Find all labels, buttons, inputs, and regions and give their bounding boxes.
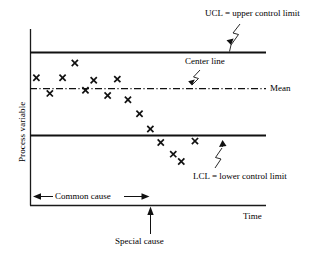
ucl-label: UCL = upper control limit (205, 9, 300, 18)
data-point-marker (170, 151, 176, 157)
center-line-label: Center line (185, 57, 225, 66)
x-axis-label: Time (243, 212, 262, 221)
center-arrowhead (188, 80, 195, 86)
data-point-marker (192, 138, 198, 144)
common-cause-arrowhead-left (33, 193, 41, 199)
lcl-leader-bolt (215, 148, 222, 168)
data-point-marker (105, 92, 111, 98)
data-point-marker (91, 77, 97, 83)
special-cause-arrow (147, 207, 153, 235)
ucl-arrow-shaft (230, 45, 232, 52)
control-limit-lines (30, 53, 266, 136)
data-point-marker (125, 97, 131, 103)
data-point-marker (47, 90, 53, 96)
common-cause-arrowhead-right (142, 193, 150, 199)
data-point-marker (147, 126, 153, 132)
ucl-arrowhead (227, 39, 234, 45)
data-point-marker (178, 158, 184, 164)
data-point-marker (33, 75, 39, 81)
data-point-group (33, 60, 198, 165)
control-chart-figure: UCL = upper control limit Center line Me… (0, 0, 320, 253)
chart-canvas (0, 0, 320, 253)
special-cause-arrowhead (147, 207, 153, 216)
data-point-marker (72, 60, 78, 66)
mean-label: Mean (270, 84, 291, 93)
special-cause-label: Special cause (115, 237, 164, 246)
lcl-label: LCL = lower control limit (193, 172, 287, 181)
data-point-marker (158, 139, 164, 145)
common-cause-label: Common cause (55, 192, 111, 201)
lcl-callout (215, 140, 227, 168)
ucl-callout (227, 24, 241, 52)
ucl-leader-bolt (231, 24, 240, 45)
y-axis-label: Process variable (18, 102, 27, 162)
data-point-marker (114, 76, 120, 82)
data-point-marker (136, 111, 142, 117)
data-point-marker (59, 75, 65, 81)
center-line-callout (188, 70, 200, 86)
